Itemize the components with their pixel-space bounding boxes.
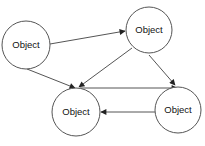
node-top-right[interactable]: Object	[126, 7, 172, 53]
edge-top-right-to-bottom-middle	[79, 48, 132, 87]
edge-left-to-top-right	[50, 31, 125, 44]
node-label: Object	[135, 24, 163, 35]
edge-top-right-to-bottom-right	[149, 55, 175, 85]
node-bottom-middle[interactable]: Object	[52, 88, 100, 136]
node-label: Object	[12, 39, 40, 50]
node-left[interactable]: Object	[2, 21, 50, 69]
edge-left-to-bottom-middle	[27, 69, 75, 88]
node-label: Object	[62, 106, 90, 117]
node-label: Object	[164, 104, 192, 115]
node-bottom-right[interactable]: Object	[155, 87, 201, 133]
object-diagram: Object Object Object Object	[0, 0, 205, 146]
